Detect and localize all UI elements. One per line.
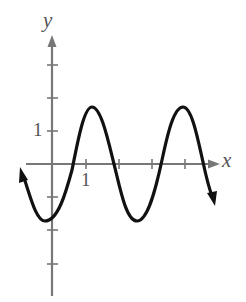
- y-axis-label: y: [43, 8, 52, 33]
- y-axis-arrow-icon: [48, 35, 57, 47]
- sinusoid-graph: [0, 0, 246, 302]
- y-tick-label-1: 1: [33, 119, 43, 141]
- x-tick-label-1: 1: [81, 169, 91, 191]
- x-axis-arrow-icon: [208, 160, 220, 169]
- curve-left-arrow-icon: [19, 167, 28, 183]
- x-axis-label: x: [222, 148, 231, 173]
- axes: [26, 44, 212, 296]
- curve-right-arrow-icon: [207, 191, 217, 206]
